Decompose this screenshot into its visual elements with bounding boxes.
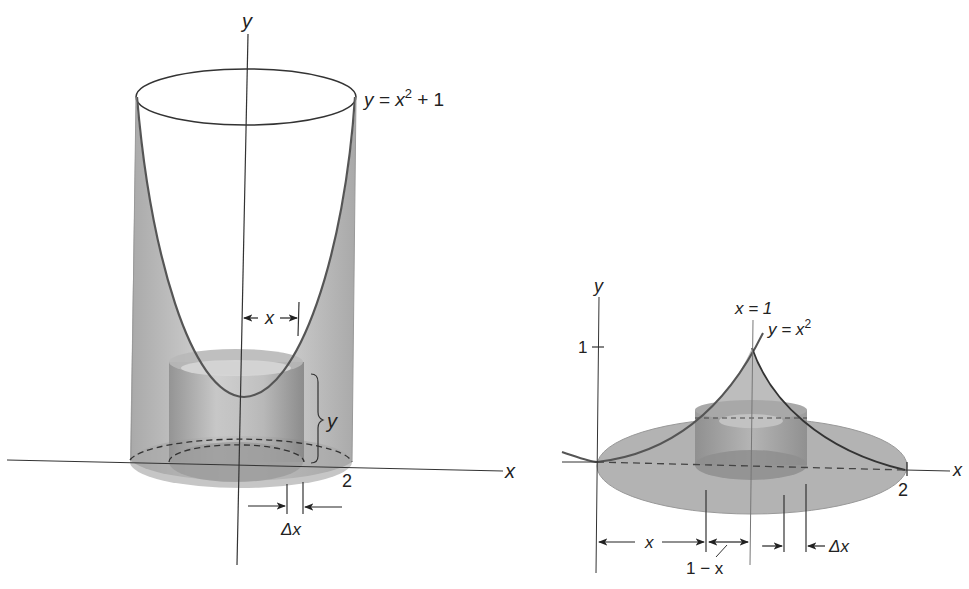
- right-figure: y x 1 2 x = 1 y = x2 x 1 − x Δx: [562, 276, 963, 578]
- right-delta-label: Δx: [828, 537, 849, 556]
- left-figure: y x y = x2 + 1 2 x y Δx: [7, 10, 516, 565]
- right-x-tick: 2: [898, 480, 908, 500]
- right-y-axis-label: y: [592, 276, 604, 296]
- left-delta-label: Δx: [280, 520, 301, 539]
- left-curve-label: y = x2 + 1: [362, 86, 444, 110]
- left-radius-label: x: [264, 308, 275, 328]
- volume-diagram: y x y = x2 + 1 2 x y Δx: [0, 0, 969, 589]
- right-one-minus-x-label: 1 − x: [686, 559, 724, 578]
- right-x-dim-label: x: [644, 533, 654, 552]
- line-x-equals-1-label: x = 1: [734, 299, 772, 318]
- right-x-axis: [905, 470, 950, 471]
- right-curve-label: y = x2: [767, 317, 811, 339]
- left-x-axis-label: x: [504, 460, 516, 482]
- left-height-label: y: [325, 410, 338, 432]
- right-x-axis-label: x: [952, 460, 963, 480]
- right-y-tick: 1: [578, 338, 587, 357]
- left-y-axis-label: y: [240, 10, 253, 32]
- right-y-axis: [596, 297, 599, 573]
- left-x-tick: 2: [342, 471, 352, 491]
